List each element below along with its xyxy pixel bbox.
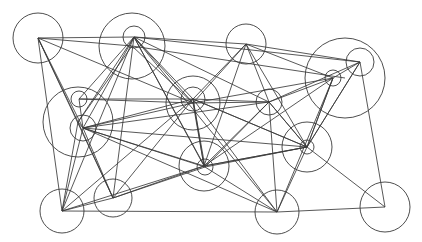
- graph-diagram: [0, 0, 422, 242]
